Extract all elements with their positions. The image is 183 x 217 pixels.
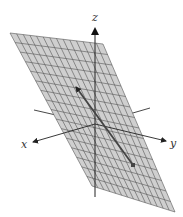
plane-diagram: z x y: [0, 0, 183, 217]
x-axis-label: x: [21, 138, 28, 151]
vector-tail-marker: [131, 163, 135, 167]
plane-fill: [10, 33, 175, 212]
plane-surface: [10, 33, 175, 212]
z-axis-label: z: [91, 11, 98, 24]
diagram-canvas: z x y: [0, 0, 183, 217]
y-axis-label: y: [169, 137, 177, 150]
